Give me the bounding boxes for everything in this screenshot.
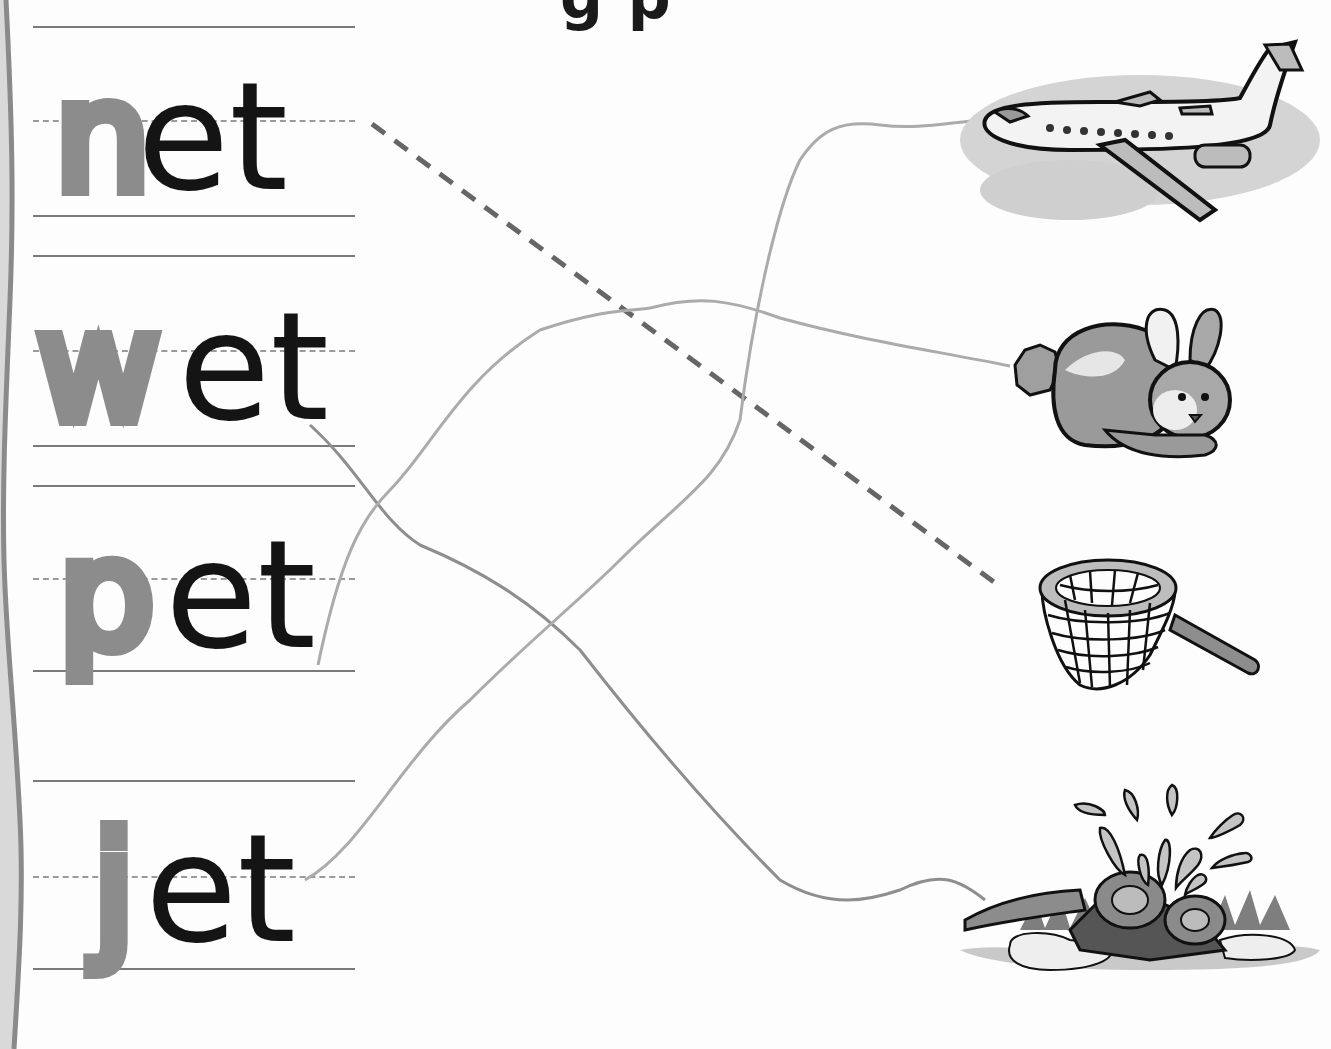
sprinkler-picture[interactable] [950,780,1330,980]
airplane-picture[interactable] [950,30,1330,230]
worksheet-page: g p n et w et p et j [0,0,1331,1049]
pencil-line-wet-sprinkler[interactable] [310,425,985,900]
pencil-line-jet-airplane[interactable] [305,120,985,880]
rabbit-picture[interactable] [1005,290,1235,470]
butterfly-net-picture[interactable] [1030,555,1270,695]
example-dashed-line [372,124,998,585]
pencil-line-pet-rabbit[interactable] [318,301,1010,665]
